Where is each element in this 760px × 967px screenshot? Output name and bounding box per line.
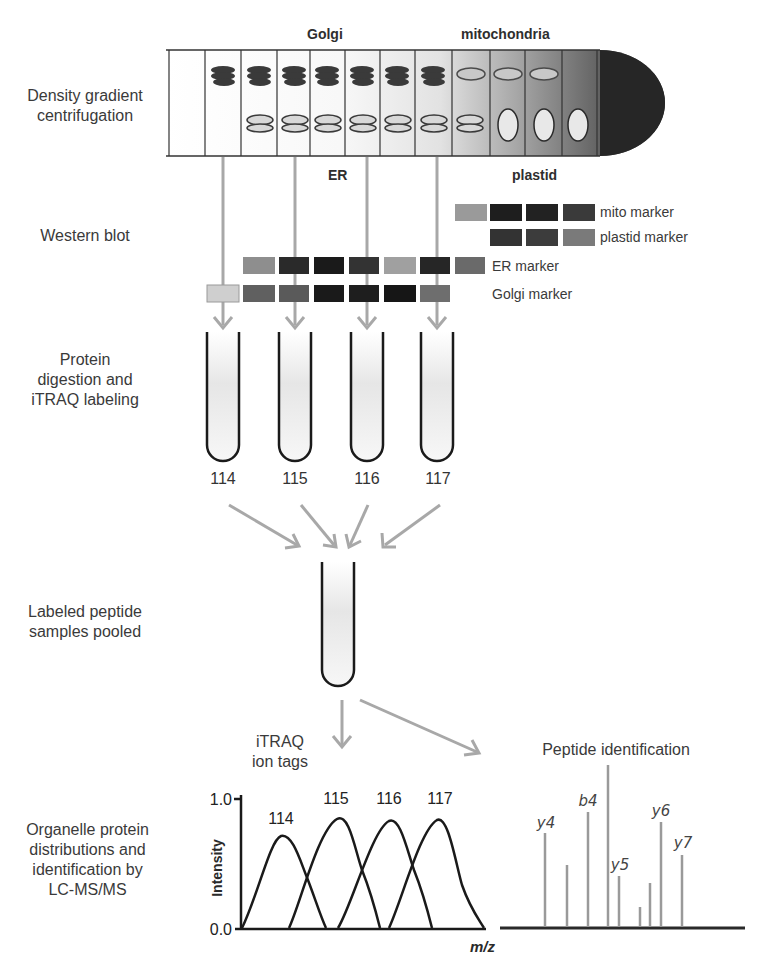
msms-spectrum: y4 b4 y5 y6 y7	[500, 765, 745, 928]
sample-tubes	[207, 332, 453, 461]
ion-label-y4: y4	[536, 814, 555, 832]
plastid-icons	[498, 109, 588, 141]
marker-label-golgi: Golgi marker	[492, 286, 572, 302]
tube-label-114: 114	[203, 470, 243, 488]
marker-label-er: ER marker	[492, 258, 559, 274]
peak-label-117: 117	[427, 790, 453, 807]
marker-label-mito: mito marker	[600, 204, 674, 220]
peak-curves	[242, 818, 484, 928]
centrifuge-tube	[166, 50, 665, 156]
pooled-tube	[322, 562, 354, 686]
y-tick-0: 0.0	[210, 921, 232, 938]
mitochondria-icons	[457, 68, 558, 80]
ion-label-y5: y5	[610, 856, 629, 874]
peak-label-114: 114	[268, 810, 294, 827]
ion-label-y7: y7	[673, 834, 693, 852]
y-axis-label: Intensity	[209, 839, 225, 897]
fraction-arrows	[214, 157, 446, 328]
marker-label-plastid: plastid marker	[600, 229, 688, 245]
output-arrows	[333, 700, 479, 755]
ion-tags-label: iTRAQ ion tags	[245, 732, 315, 772]
tube-label-115: 115	[275, 470, 315, 488]
ion-label-y6: y6	[651, 802, 670, 820]
peak-label-116: 116	[376, 790, 402, 807]
ion-label-b4: b4	[578, 792, 597, 810]
x-axis-label: m/z	[470, 938, 496, 955]
itraq-chart: 1.0 0.0 Intensity m/z 114 115 116 117	[209, 790, 496, 955]
tube-label-117: 117	[418, 470, 458, 488]
tube-label-116: 116	[347, 470, 387, 488]
y-tick-1: 1.0	[210, 791, 232, 808]
peak-label-115: 115	[323, 790, 349, 807]
pool-arrows	[229, 505, 440, 548]
peptide-identification-label: Peptide identification	[516, 740, 716, 760]
